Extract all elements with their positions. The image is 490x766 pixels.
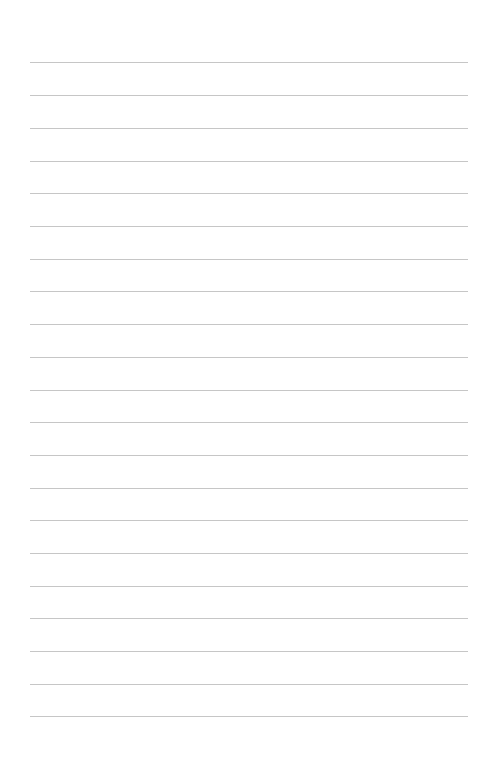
ruled-line bbox=[30, 651, 468, 652]
ruled-line bbox=[30, 128, 468, 129]
ruled-line bbox=[30, 716, 468, 717]
ruled-line bbox=[30, 553, 468, 554]
ruled-line bbox=[30, 95, 468, 96]
ruled-line bbox=[30, 422, 468, 423]
ruled-line bbox=[30, 455, 468, 456]
ruled-line bbox=[30, 357, 468, 358]
ruled-line bbox=[30, 618, 468, 619]
ruled-line bbox=[30, 193, 468, 194]
ruled-line bbox=[30, 161, 468, 162]
lined-page bbox=[0, 0, 490, 766]
ruled-line bbox=[30, 324, 468, 325]
ruled-line bbox=[30, 259, 468, 260]
ruled-line bbox=[30, 291, 468, 292]
ruled-line bbox=[30, 520, 468, 521]
ruled-line bbox=[30, 586, 468, 587]
ruled-line bbox=[30, 488, 468, 489]
ruled-line bbox=[30, 226, 468, 227]
ruled-line bbox=[30, 390, 468, 391]
ruled-line bbox=[30, 62, 468, 63]
ruled-line bbox=[30, 684, 468, 685]
